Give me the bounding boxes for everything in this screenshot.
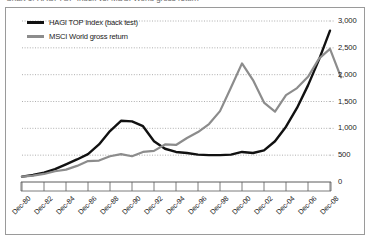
y-axis-tick-label: 1,500 [338, 97, 357, 106]
y-axis-tick-label: 2,000 [338, 70, 357, 79]
y-axis-tick-label: 0 [338, 177, 342, 186]
chart-legend: HAGI TOP Index (back test) MSCI World gr… [27, 16, 207, 44]
legend-item-msci: MSCI World gross return [27, 30, 207, 42]
legend-item-hagi: HAGI TOP Index (back test) [27, 16, 207, 28]
y-axis-tick-label: 2,500 [338, 43, 357, 52]
y-axis-tick-label: 500 [338, 150, 350, 159]
series-line-hagi [22, 31, 330, 177]
legend-label-msci: MSCI World gross return [49, 32, 128, 41]
y-axis-tick-label: 3,000 [338, 16, 357, 25]
legend-swatch-hagi-icon [27, 21, 44, 24]
legend-swatch-msci-icon [27, 35, 44, 38]
legend-label-hagi: HAGI TOP Index (back test) [49, 18, 138, 27]
y-axis-tick-label: 1,000 [338, 123, 357, 132]
chart-figure: Chart 1: HAGI TOP Index vs. MSCI World g… [0, 0, 371, 241]
